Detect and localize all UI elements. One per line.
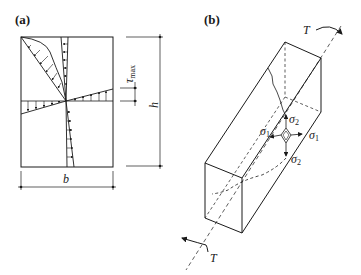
left-horizontal-stress — [21, 101, 66, 114]
torque-bottom-arrow-tail — [206, 245, 208, 252]
torque-bottom-arrow-icon — [182, 238, 206, 245]
width-dimension: b — [18, 171, 116, 190]
panel-b: (b) — [182, 12, 342, 270]
panel-b-label: (b) — [204, 12, 220, 27]
b-label: b — [63, 172, 69, 186]
torque-bottom-label: T — [210, 251, 218, 265]
tau-max-label: τmax — [122, 65, 137, 83]
top-vertical-stress — [61, 37, 68, 101]
corner-stress-distribution — [21, 37, 66, 101]
crack-path — [212, 68, 286, 194]
torque-top-arrow-icon — [316, 27, 342, 34]
h-label: h — [147, 102, 161, 108]
sigma1-left-label: σ1 — [260, 124, 270, 139]
panel-a: (a) — [15, 12, 163, 190]
bottom-vertical-stress — [66, 101, 74, 167]
torque-top-label: T — [303, 23, 311, 37]
tau-max-dimension: τmax — [120, 65, 137, 106]
sigma2-top-label: σ2 — [289, 112, 299, 127]
panel-a-label: (a) — [15, 12, 30, 27]
figure-canvas: (a) — [0, 0, 361, 275]
sigma2-bottom-label: σ2 — [291, 152, 301, 167]
right-horizontal-stress — [66, 89, 113, 101]
sigma1-right-label: σ1 — [309, 128, 319, 143]
height-dimension: h — [126, 34, 163, 169]
